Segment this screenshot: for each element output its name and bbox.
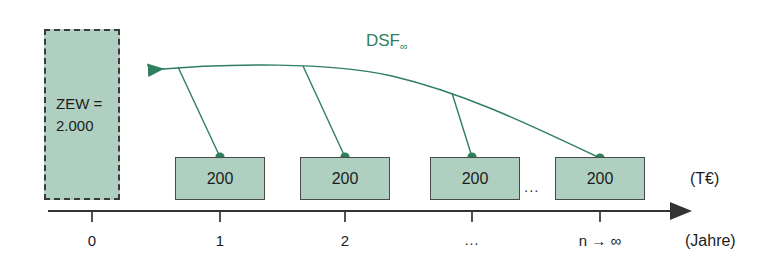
cashflow-ellipsis: ... bbox=[524, 178, 540, 195]
present-value-box: ZEW = 2.000 bbox=[44, 29, 120, 200]
axis-tick-label-0: 0 bbox=[88, 232, 96, 249]
axis-tick-label-2: 2 bbox=[341, 232, 349, 249]
cashflow-box-period-n: 200 bbox=[555, 157, 645, 200]
cashflow-box-period-ellipsis: 200 bbox=[430, 157, 520, 200]
cashflow-value: 200 bbox=[462, 170, 489, 188]
cashflow-box-period-2: 200 bbox=[300, 157, 390, 200]
dsf-infinity-label: DSF∞ bbox=[366, 31, 408, 52]
cashflow-value: 200 bbox=[587, 170, 614, 188]
cashflow-value: 200 bbox=[332, 170, 359, 188]
axis-tick-label-ellipsis: ... bbox=[465, 232, 480, 248]
cashflow-box-period-1: 200 bbox=[175, 157, 265, 200]
time-unit-label: (Jahre) bbox=[685, 232, 736, 250]
perpetuity-cashflow-diagram: DSF∞ ZEW = 2.000 200 200 200 200 ... 0 1… bbox=[0, 0, 783, 279]
connector-dots bbox=[215, 152, 604, 162]
axis-tick-label-1: 1 bbox=[216, 232, 224, 249]
dsf-label-subscript: ∞ bbox=[400, 40, 408, 52]
money-unit-label: (T€) bbox=[690, 170, 719, 188]
axis-tick-label-n-infinity: n → ∞ bbox=[579, 232, 621, 249]
time-axis bbox=[48, 211, 672, 222]
discount-factor-curve bbox=[150, 65, 600, 158]
present-value-label: ZEW = 2.000 bbox=[46, 93, 102, 137]
cashflow-value: 200 bbox=[207, 170, 234, 188]
dsf-label-text: DSF bbox=[366, 31, 400, 50]
cashflow-connectors bbox=[178, 66, 472, 157]
